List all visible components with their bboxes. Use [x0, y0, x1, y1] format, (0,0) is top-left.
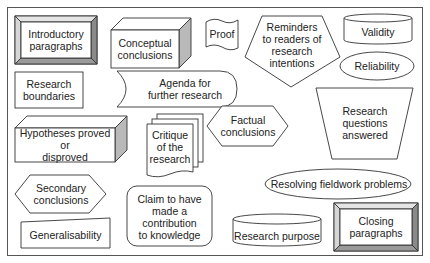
label-line: Research: [343, 105, 388, 117]
label-line: Validity: [361, 26, 394, 38]
label-line: Factual: [231, 114, 265, 126]
label-line: Research: [27, 78, 72, 90]
label-claim: Claim to have made a contribution to kno…: [127, 189, 212, 245]
label-line: conclusions: [34, 194, 89, 206]
label-line: Claim to have: [137, 193, 201, 205]
label-research-boundaries: Research boundaries: [15, 72, 83, 108]
label-research-purpose: Research purpose: [233, 226, 321, 246]
label-line: boundaries: [23, 90, 75, 102]
label-line: questions: [343, 117, 388, 129]
label-line: answered: [342, 129, 388, 141]
label-line: Introductory: [28, 28, 83, 40]
label-critique: Critique of the research: [147, 125, 193, 169]
label-factual-conclusions: Factual conclusions: [212, 106, 284, 146]
label-line: made a: [152, 205, 187, 217]
label-generalisability: Generalisability: [21, 222, 110, 248]
label-line: Proof: [209, 28, 234, 40]
label-line: contribution: [142, 217, 196, 229]
label-line: intentions: [270, 57, 315, 69]
label-resolving-fieldwork: Resolving fieldwork problems: [266, 174, 412, 194]
label-line: Reliability: [355, 60, 400, 72]
label-conceptual-conclusions: Conceptual conclusions: [111, 30, 179, 68]
label-line: to knowledge: [139, 229, 201, 241]
label-reliability: Reliability: [342, 56, 412, 76]
label-line: of the: [157, 141, 183, 153]
label-line: Critique: [152, 129, 188, 141]
label-line: Closing: [358, 215, 393, 227]
label-agenda: Agenda for further research: [135, 71, 235, 107]
label-line: research: [272, 45, 313, 57]
label-line: paragraphs: [349, 227, 402, 239]
label-line: Hypotheses proved or: [15, 127, 115, 151]
label-line: Generalisability: [30, 229, 102, 241]
label-secondary-conclusions: Secondary conclusions: [20, 175, 102, 213]
label-line: Agenda for: [159, 77, 210, 89]
label-line: conclusions: [221, 126, 276, 138]
label-line: research: [150, 153, 191, 165]
label-line: to readers of: [263, 33, 322, 45]
label-introductory-paragraphs: Introductory paragraphs: [21, 22, 91, 58]
label-proof: Proof: [206, 21, 238, 47]
label-line: Research purpose: [234, 230, 320, 242]
label-line: Reminders: [267, 21, 318, 33]
label-validity: Validity: [344, 22, 412, 42]
label-line: Conceptual: [118, 37, 171, 49]
label-line: disproved: [42, 151, 88, 163]
label-reminders: Reminders to readers of research intenti…: [252, 20, 332, 70]
label-line: further research: [148, 89, 222, 101]
label-closing-paragraphs: Closing paragraphs: [340, 209, 412, 245]
label-line: paragraphs: [29, 40, 82, 52]
label-hypotheses: Hypotheses proved or disproved: [15, 128, 115, 162]
label-research-questions: Research questions answered: [330, 102, 400, 144]
label-line: Secondary: [36, 182, 86, 194]
label-line: Resolving fieldwork problems: [271, 178, 408, 190]
label-line: conclusions: [118, 49, 173, 61]
